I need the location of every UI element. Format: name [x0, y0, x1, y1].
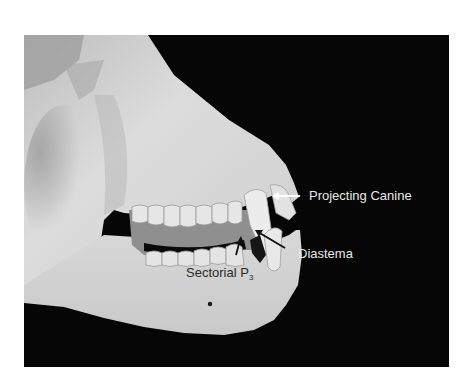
skull-photo: Projecting Canine Diastema Sectorial P3	[24, 35, 449, 367]
label-diastema: Diastema	[298, 247, 353, 260]
subscript-3: 3	[249, 273, 253, 282]
sectorial-p3-tooth	[226, 244, 244, 267]
mental-foramen	[208, 302, 212, 306]
label-projecting-canine: Projecting Canine	[309, 189, 412, 202]
label-sectorial-p3: Sectorial P3	[186, 266, 253, 282]
